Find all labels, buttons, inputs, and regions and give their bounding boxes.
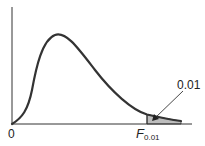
critical-value-subscript: 0.01	[144, 133, 160, 142]
density-curve	[12, 34, 181, 124]
origin-label: 0	[8, 128, 15, 140]
critical-value-label: F0.01	[136, 127, 160, 142]
tail-area-label: 0.01	[177, 79, 200, 91]
critical-value-main: F	[136, 126, 144, 141]
f-distribution-chart	[0, 0, 205, 146]
annotation-arrow	[155, 91, 183, 118]
